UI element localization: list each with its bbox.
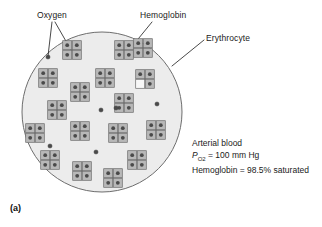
bound-oxygen-molecule [75,43,79,47]
bound-oxygen-molecule [28,126,32,130]
stats-po2: PO2 = 100 mm Hg [192,150,309,165]
hemoglobin-molecule [115,41,134,60]
bound-oxygen-molecule [138,72,142,76]
bound-oxygen-molecule [108,71,112,75]
bound-oxygen-molecule [140,153,144,157]
free-oxygen-molecule [155,102,159,106]
hemoglobin-molecule [71,83,90,102]
bound-oxygen-molecule [83,124,87,128]
bound-oxygen-molecule [28,136,32,140]
bound-oxygen-molecule [111,136,115,140]
bound-oxygen-molecule [121,126,125,130]
bound-oxygen-molecule [127,106,131,110]
bound-oxygen-molecule [98,71,102,75]
hemoglobin-molecule [147,121,166,140]
bound-oxygen-molecule [85,174,89,178]
label-oxygen: Oxygen [37,10,67,20]
label-hemoglobin: Hemoglobin [140,10,186,20]
hemoglobin-molecule [136,70,155,89]
free-oxygen-molecule [114,106,118,110]
bound-oxygen-molecule [50,113,54,117]
bound-oxygen-molecule [106,171,110,175]
hemoglobin-molecule [63,41,82,60]
bound-oxygen-molecule [130,153,134,157]
stats-saturation: Hemoglobin = 98.5% saturated [192,165,309,177]
bound-oxygen-molecule [43,163,47,167]
bound-oxygen-molecule [73,124,77,128]
hemoglobin-molecule [71,122,90,141]
label-erythrocyte: Erythrocyte [206,33,250,43]
bound-oxygen-molecule [116,181,120,185]
panel-letter: (a) [10,203,21,213]
bound-oxygen-molecule [73,134,77,138]
bound-oxygen-molecule [75,164,79,168]
hemoglobin-molecule [39,69,58,88]
bound-oxygen-molecule [117,43,121,47]
bound-oxygen-molecule [116,171,120,175]
bound-oxygen-molecule [130,163,134,167]
bound-oxygen-molecule [53,153,57,157]
diagram-canvas [0,0,322,227]
bound-oxygen-molecule [121,136,125,140]
bound-oxygen-molecule [111,126,115,130]
free-oxygen-molecule [99,108,103,112]
bound-oxygen-molecule [106,181,110,185]
bound-oxygen-molecule [136,41,140,45]
bound-oxygen-molecule [75,53,79,57]
bound-oxygen-molecule [73,85,77,89]
bound-oxygen-molecule [60,113,64,117]
bound-oxygen-molecule [140,163,144,167]
hemoglobin-molecule [26,124,45,143]
bound-oxygen-molecule [148,72,152,76]
bound-oxygen-molecule [38,136,42,140]
bound-oxygen-molecule [117,96,121,100]
hemoglobin-molecule [41,151,60,170]
free-oxygen-molecule [94,150,98,154]
hemoglobin-molecule [134,39,153,58]
bound-oxygen-molecule [75,174,79,178]
hemoglobin-molecule [96,69,115,88]
bound-oxygen-molecule [65,53,69,57]
bound-oxygen-molecule [83,95,87,99]
bound-oxygen-molecule [127,96,131,100]
bound-oxygen-molecule [159,123,163,127]
free-oxygen-molecule [46,55,50,59]
bound-oxygen-molecule [149,133,153,137]
stats-arterial-blood: Arterial blood [192,138,309,150]
bound-oxygen-molecule [108,81,112,85]
hemoglobin-molecule [104,169,123,188]
bound-oxygen-molecule [127,43,131,47]
hemoglobin-molecule [109,124,128,143]
bound-oxygen-molecule [38,126,42,130]
blood-gas-stats: Arterial blood PO2 = 100 mm Hg Hemoglobi… [192,138,309,176]
bound-oxygen-molecule [85,164,89,168]
bound-oxygen-molecule [127,53,131,57]
hemoglobin-molecule [73,162,92,181]
bound-oxygen-molecule [51,81,55,85]
bound-oxygen-molecule [65,43,69,47]
bound-oxygen-molecule [149,123,153,127]
bound-oxygen-molecule [117,53,121,57]
free-oxygen-molecule [48,144,52,148]
bound-oxygen-molecule [148,82,152,86]
bound-oxygen-molecule [136,51,140,55]
bound-oxygen-molecule [159,133,163,137]
hemoglobin-subunit-empty [136,79,145,88]
bound-oxygen-molecule [83,134,87,138]
bound-oxygen-molecule [83,85,87,89]
bound-oxygen-molecule [43,153,47,157]
bound-oxygen-molecule [60,103,64,107]
hemoglobin-molecule [128,151,147,170]
bound-oxygen-molecule [51,71,55,75]
po2-value: = 100 mm Hg [206,150,260,160]
bound-oxygen-molecule [146,51,150,55]
bound-oxygen-molecule [53,163,57,167]
bound-oxygen-molecule [146,41,150,45]
figure-panel: Oxygen Hemoglobin Erythrocyte Arterial b… [0,0,322,227]
bound-oxygen-molecule [41,81,45,85]
bound-oxygen-molecule [41,71,45,75]
bound-oxygen-molecule [73,95,77,99]
bound-oxygen-molecule [50,103,54,107]
bound-oxygen-molecule [98,81,102,85]
leader-line-erythrocyte [172,40,204,66]
